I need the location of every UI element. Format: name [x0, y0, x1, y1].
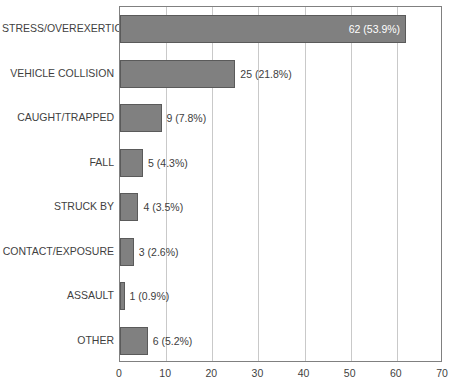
category-label: FALL — [2, 148, 114, 176]
bar-chart: STRESS/OVEREXERTIONVEHICLE COLLISIONCAUG… — [0, 0, 452, 387]
bar-value-label: 25 (21.8%) — [240, 60, 291, 88]
category-label: ASSAULT — [2, 281, 114, 309]
bar — [120, 149, 143, 177]
category-label: VEHICLE COLLISION — [2, 59, 114, 87]
bar-row: 5 (4.3%) — [120, 141, 441, 186]
bar-value-label: 6 (5.2%) — [153, 327, 193, 355]
bar-value-label: 62 (53.9%) — [120, 15, 400, 43]
plot-area: 62 (53.9%)25 (21.8%)9 (7.8%)5 (4.3%)4 (3… — [119, 6, 442, 362]
x-tick-label: 0 — [116, 367, 122, 379]
bar-row: 6 (5.2%) — [120, 319, 441, 364]
bar — [120, 238, 134, 266]
x-tick-label: 20 — [205, 367, 217, 379]
bar-row: 4 (3.5%) — [120, 185, 441, 230]
bar-row: 9 (7.8%) — [120, 96, 441, 141]
bar-value-label: 5 (4.3%) — [148, 149, 188, 177]
category-label: OTHER — [2, 326, 114, 354]
category-label: CONTACT/EXPOSURE — [2, 237, 114, 265]
bar-value-label: 9 (7.8%) — [167, 104, 207, 132]
bar — [120, 193, 138, 221]
bar — [120, 104, 162, 132]
x-tick-label: 30 — [252, 367, 264, 379]
x-tick-label: 10 — [159, 367, 171, 379]
category-label: CAUGHT/TRAPPED — [2, 103, 114, 131]
bar — [120, 60, 235, 88]
x-tick-label: 60 — [390, 367, 402, 379]
x-tick-label: 70 — [436, 367, 448, 379]
bar-row: 62 (53.9%) — [120, 7, 441, 52]
bar — [120, 327, 148, 355]
bar-value-label: 4 (3.5%) — [143, 193, 183, 221]
category-label: STRESS/OVEREXERTION — [2, 14, 114, 42]
bar-row: 1 (0.9%) — [120, 274, 441, 319]
bar-value-label: 3 (2.6%) — [139, 238, 179, 266]
bar — [120, 282, 125, 310]
x-tick-label: 50 — [344, 367, 356, 379]
bar-value-label: 1 (0.9%) — [130, 282, 170, 310]
category-axis-labels: STRESS/OVEREXERTIONVEHICLE COLLISIONCAUG… — [0, 6, 114, 362]
bar-row: 3 (2.6%) — [120, 230, 441, 275]
x-axis-labels: 010203040506070 — [119, 364, 442, 386]
category-label: STRUCK BY — [2, 192, 114, 220]
bar-row: 25 (21.8%) — [120, 52, 441, 97]
x-tick-label: 40 — [298, 367, 310, 379]
